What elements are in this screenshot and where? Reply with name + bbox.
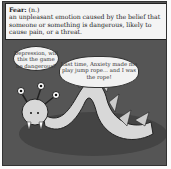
speech-bubble-anxiety: Last time, Anxiety made me play jump rop… <box>59 56 139 88</box>
definition-term: Fear: <box>9 6 27 13</box>
definition-pos: (n.) <box>29 6 40 13</box>
speech-bubble-depression: Depression, will this the game be danger… <box>13 46 59 71</box>
definition-text: an unpleasant emotion caused by the beli… <box>9 13 160 35</box>
definition-box: Fear: (n.) an unpleasant emotion caused … <box>5 3 167 40</box>
comic-panel: Fear: (n.) an unpleasant emotion caused … <box>2 1 167 166</box>
